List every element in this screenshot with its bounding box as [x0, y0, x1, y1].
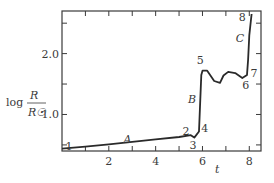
point-label: 4: [201, 122, 208, 135]
x-tick-label: 8: [246, 155, 253, 168]
y-axis-label-denominator: R☉: [27, 106, 47, 119]
axis-tick-labels: 24681.02.0: [42, 48, 253, 168]
track-annotations: 12345678ABC: [66, 11, 258, 153]
x-tick-label: 2: [105, 155, 112, 168]
segment-label: A: [123, 133, 132, 146]
plot-border: [62, 11, 261, 151]
point-label: 6: [242, 79, 249, 92]
axis-ticks: [62, 11, 261, 151]
plot-frame: [62, 11, 261, 151]
y-axis-label: log R R☉: [6, 89, 47, 119]
point-label: 7: [250, 67, 257, 80]
x-axis-label: t: [215, 163, 220, 176]
point-label: 3: [190, 139, 197, 152]
chart: 24681.02.0 12345678ABC log R R☉ t: [0, 0, 274, 183]
x-tick-label: 4: [152, 155, 159, 168]
segment-label: B: [187, 93, 196, 106]
x-tick-label: 6: [199, 155, 206, 168]
point-label: 2: [183, 125, 190, 138]
y-axis-label-log: log: [6, 96, 23, 109]
y-axis-label-numerator: R: [29, 89, 38, 102]
point-label: 5: [197, 54, 204, 67]
point-label: 8: [239, 11, 246, 24]
segment-label: C: [236, 32, 245, 45]
evolutionary-track-line: [62, 14, 252, 149]
y-tick-label: 2.0: [42, 48, 60, 61]
point-label: 1: [66, 140, 73, 153]
